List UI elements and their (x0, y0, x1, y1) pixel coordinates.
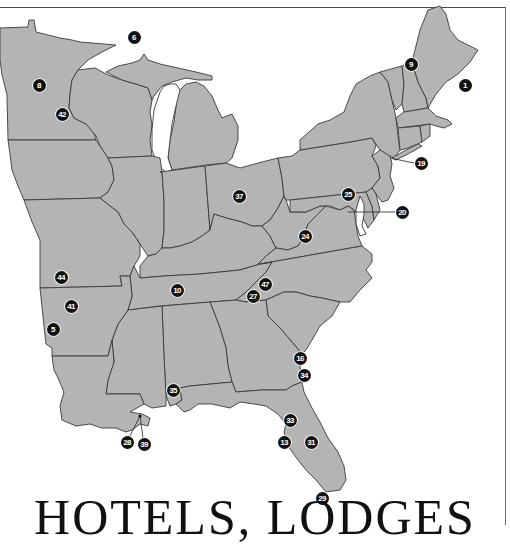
location-marker-9[interactable]: 9 (405, 58, 418, 71)
location-marker-6[interactable]: 6 (128, 31, 141, 44)
location-marker-44[interactable]: 44 (55, 271, 68, 284)
state-iowa[interactable] (8, 140, 114, 200)
location-marker-24[interactable]: 24 (299, 230, 312, 243)
state-rhode-island[interactable] (420, 124, 430, 142)
location-marker-33[interactable]: 33 (284, 414, 297, 427)
state-florida[interactable] (176, 382, 346, 492)
location-marker-19[interactable]: 19 (415, 157, 428, 170)
leader-point-new-orleans (138, 414, 141, 417)
leader-line-19 (390, 158, 414, 163)
location-marker-31[interactable]: 31 (305, 436, 318, 449)
location-marker-35[interactable]: 35 (167, 384, 180, 397)
location-marker-42[interactable]: 42 (56, 108, 69, 121)
location-marker-28[interactable]: 28 (121, 436, 134, 449)
location-marker-41[interactable]: 41 (65, 300, 78, 313)
state-pennsylvania[interactable] (278, 138, 380, 200)
location-marker-37[interactable]: 37 (233, 190, 246, 203)
location-marker-10[interactable]: 10 (171, 284, 184, 297)
location-marker-8[interactable]: 8 (33, 79, 46, 92)
location-marker-34[interactable]: 34 (298, 369, 311, 382)
location-marker-16[interactable]: 16 (294, 352, 307, 365)
location-marker-39[interactable]: 39 (138, 438, 151, 451)
location-marker-1[interactable]: 1 (459, 79, 472, 92)
map-title: HOTELS, LODGES (0, 492, 510, 542)
location-marker-25[interactable]: 25 (342, 188, 355, 201)
location-marker-5[interactable]: 5 (47, 323, 60, 336)
location-marker-13[interactable]: 13 (278, 436, 291, 449)
location-marker-20[interactable]: 20 (396, 206, 409, 219)
location-marker-27[interactable]: 27 (247, 290, 260, 303)
location-marker-47[interactable]: 47 (259, 278, 272, 291)
